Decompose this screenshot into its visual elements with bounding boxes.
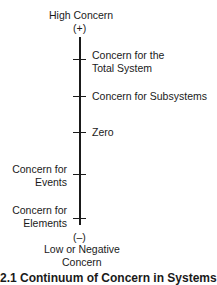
- tick-label-events-2: Events: [35, 176, 67, 188]
- tick-label-total-system-2: Total System: [92, 62, 152, 74]
- tick-subsystems: [73, 96, 86, 97]
- tick-label-total-system-1: Concern for the: [92, 49, 164, 61]
- tick-label-subsystems: Concern for Subsystems: [92, 90, 207, 102]
- bottom-label-2: Concern: [62, 256, 102, 268]
- top-sign: (+): [73, 22, 86, 34]
- top-label: High Concern: [49, 9, 113, 21]
- tick-events: [73, 174, 86, 175]
- tick-zero: [73, 132, 86, 133]
- tick-label-elements-2: Elements: [23, 217, 67, 229]
- vertical-axis: [79, 37, 81, 225]
- bottom-label-1: Low or Negative: [44, 243, 120, 255]
- tick-total-system: [73, 59, 86, 60]
- tick-label-elements-1: Concern for: [12, 204, 67, 216]
- tick-label-events-1: Concern for: [12, 163, 67, 175]
- tick-elements: [73, 218, 86, 219]
- bottom-sign: (–): [73, 231, 86, 243]
- tick-label-zero: Zero: [92, 126, 114, 138]
- figure-caption: 2.1 Continuum of Concern in Systems: [0, 271, 217, 285]
